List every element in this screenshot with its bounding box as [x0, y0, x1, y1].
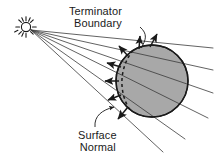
terminator-leader-line [140, 27, 145, 48]
sun-core [21, 22, 30, 31]
surface-normal-arrow [118, 107, 128, 119]
light-ray [31, 30, 213, 48]
sun-ray [19, 20, 22, 23]
surface-normal-arrow [107, 63, 121, 67]
sun-icon [15, 17, 37, 37]
terminator-boundary-label: Terminator Boundary [69, 5, 122, 29]
surface-normal-leader-line [95, 107, 114, 127]
sun-ray [31, 20, 34, 23]
sun-ray [19, 32, 22, 35]
terminator-boundary-label-line2: Boundary [69, 17, 122, 29]
surface-normal-arrow [139, 36, 140, 49]
sun-ray [15, 30, 18, 32]
surface-normal-label-line2: Normal [78, 141, 117, 153]
sun-ray [29, 18, 31, 21]
sun-ray [22, 33, 24, 36]
terminator-boundary-label-line1: Terminator [69, 5, 122, 17]
sun-ray [22, 18, 24, 21]
surface-normal-label: Surface Normal [78, 129, 117, 153]
diagram-figure: Terminator Boundary Surface Normal [0, 0, 214, 160]
surface-normal-label-line1: Surface [78, 129, 117, 141]
